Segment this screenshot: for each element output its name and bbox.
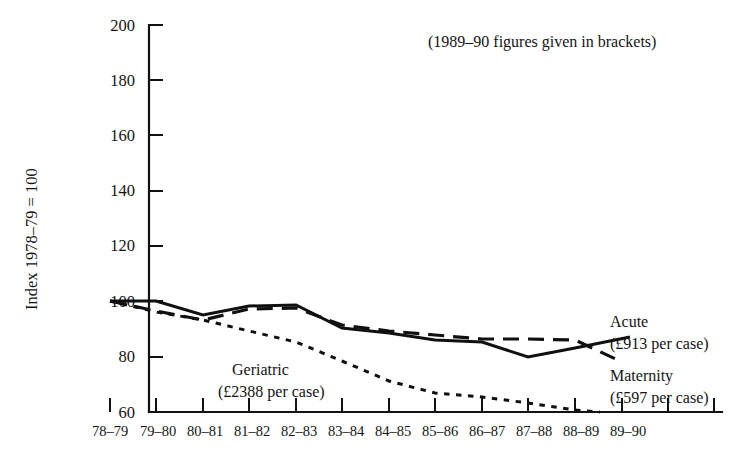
x-tick-label-88-89: 88–89 <box>563 423 599 439</box>
y-axis-title: Index 1978–79 = 100 <box>22 168 41 310</box>
y-tick-label-200: 200 <box>110 16 135 35</box>
chart-figure: Index 1978–79 = 100 200 180 160 140 120 … <box>0 0 748 467</box>
y-tick-label-140: 140 <box>110 181 135 200</box>
y-tick-label-60: 60 <box>119 403 136 422</box>
x-tick-label-79-80: 79–80 <box>140 423 176 439</box>
y-tick-marks <box>149 25 163 412</box>
line-chart-svg: Index 1978–79 = 100 200 180 160 140 120 … <box>0 0 748 467</box>
y-tick-label-80: 80 <box>119 347 136 366</box>
x-tick-label-80-81: 80–81 <box>187 423 223 439</box>
x-tick-label-89-90: 89–90 <box>610 423 646 439</box>
y-tick-label-180: 180 <box>110 71 135 90</box>
x-tick-label-83-84: 83–84 <box>328 423 365 439</box>
x-tick-label-81-82: 81–82 <box>234 423 270 439</box>
x-tick-label-85-86: 85–86 <box>422 423 458 439</box>
series-label-maternity-name: Maternity <box>610 367 673 385</box>
brackets-annotation: (1989–90 figures given in brackets) <box>428 33 656 51</box>
x-tick-label-78-79: 78–79 <box>92 423 128 439</box>
y-tick-label-120: 120 <box>110 236 135 255</box>
series-label-acute-name: Acute <box>610 313 648 330</box>
x-tick-label-84-85: 84–85 <box>375 423 411 439</box>
series-label-maternity-detail: (£597 per case) <box>610 389 709 407</box>
x-tick-label-86-87: 86–87 <box>469 423 505 439</box>
series-label-geriatric-name: Geriatric <box>232 361 289 378</box>
series-label-geriatric-detail: (£2388 per case) <box>218 383 325 401</box>
x-tick-label-82-83: 82–83 <box>281 423 317 439</box>
y-tick-label-160: 160 <box>110 126 135 145</box>
series-line-acute <box>110 301 630 357</box>
series-label-acute-detail: (£913 per case) <box>610 335 709 353</box>
x-tick-label-87-88: 87–88 <box>516 423 552 439</box>
